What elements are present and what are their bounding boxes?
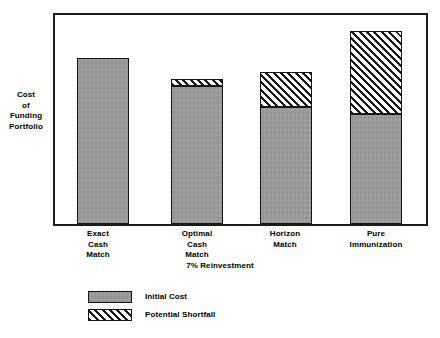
tick-label-line: Match: [240, 240, 330, 251]
y-axis-title-line-2: of: [2, 101, 50, 112]
bar-chart-figure: Cost of Funding Portfolio: [0, 0, 440, 338]
x-axis-title: 7% Reinvestment: [0, 261, 440, 270]
legend-label-potential-shortfall: Potential Shortfall: [145, 309, 215, 321]
tick-label-line: Immunization: [331, 240, 421, 251]
bar-group-pure-immunization: [350, 31, 402, 224]
y-axis-title-line-3: Funding: [2, 111, 50, 122]
bar-segment-initial-cost: [260, 107, 312, 224]
tick-label-line: Pure: [331, 229, 421, 240]
tick-label-line: Match: [152, 250, 242, 261]
bar-segment-potential-shortfall: [350, 31, 402, 114]
bar-segment-initial-cost: [171, 86, 223, 224]
x-tick-label-optimal-cash-match: Optimal Cash Match: [152, 229, 242, 261]
tick-label-line: Optimal: [152, 229, 242, 240]
bar-segment-potential-shortfall: [260, 72, 312, 106]
y-axis-title-line-1: Cost: [2, 90, 50, 101]
tick-label-line: Exact: [53, 229, 143, 240]
y-axis-title: Cost of Funding Portfolio: [2, 90, 50, 132]
tick-label-line: Cash: [152, 240, 242, 251]
y-axis-title-line-4: Portfolio: [2, 122, 50, 133]
tick-label-line: Horizon: [240, 229, 330, 240]
legend-label-initial-cost: Initial Cost: [145, 291, 187, 303]
tick-label-line: Cash: [53, 240, 143, 251]
bar-segment-initial-cost: [77, 58, 129, 224]
bar-group-optimal-cash-match: [171, 79, 223, 224]
x-tick-label-pure-immunization: Pure Immunization: [331, 229, 421, 250]
bar-group-exact-cash-match: [77, 58, 129, 224]
plot-frame: [53, 13, 428, 226]
bar-group-horizon-match: [260, 72, 312, 224]
legend-swatch-initial-cost: [88, 291, 132, 303]
legend-swatch-potential-shortfall: [88, 309, 132, 321]
bar-segment-potential-shortfall: [171, 79, 223, 87]
bar-segment-initial-cost: [350, 114, 402, 224]
plot-area: [55, 15, 426, 224]
x-tick-label-horizon-match: Horizon Match: [240, 229, 330, 250]
x-tick-label-exact-cash-match: Exact Cash Match: [53, 229, 143, 261]
tick-label-line: Match: [53, 250, 143, 261]
